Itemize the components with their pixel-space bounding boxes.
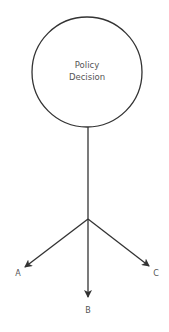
branch-label-b: B (85, 306, 91, 315)
node-label-line1: Policy (75, 60, 99, 70)
branch-arrow-a (25, 219, 88, 267)
branch-arrow-c (88, 219, 149, 266)
decision-diagram: Policy Decision A B C (0, 0, 169, 332)
node-label-line2: Decision (69, 72, 105, 82)
branch-label-c: C (153, 269, 159, 278)
branch-label-a: A (15, 269, 21, 278)
